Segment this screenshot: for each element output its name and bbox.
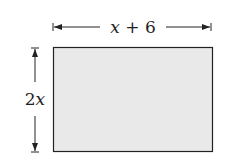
- width-dimension: x + 6: [53, 17, 211, 37]
- height-label: 2x: [25, 89, 46, 109]
- width-label: x + 6: [110, 17, 155, 37]
- rectangle-diagram: x + 6 2x: [0, 0, 226, 159]
- shaded-rectangle: [54, 48, 213, 152]
- height-dimension: 2x: [25, 48, 46, 152]
